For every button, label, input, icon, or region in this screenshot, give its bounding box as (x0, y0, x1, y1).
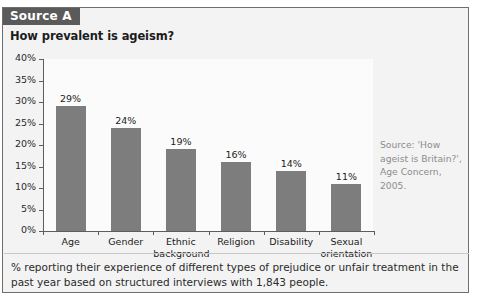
bar (111, 128, 141, 231)
bar (166, 149, 196, 231)
bar-value-label: 29% (46, 93, 96, 104)
bar-value-label: 14% (266, 158, 316, 169)
y-axis-tick-mark (39, 81, 43, 82)
x-axis-category-label: Ethnic background (153, 236, 208, 259)
bar-value-label: 11% (321, 171, 371, 182)
x-axis-tick-mark (374, 231, 375, 235)
y-axis-tick-mark (39, 145, 43, 146)
y-axis-tick-mark (39, 210, 43, 211)
y-axis-tick-mark (39, 59, 43, 60)
y-axis-tick-label: 20% (15, 138, 36, 149)
x-axis-category-label: Disability (264, 236, 319, 248)
y-axis-tick-label: 35% (15, 74, 36, 85)
x-axis-category-label: Sexual orientation (319, 236, 374, 259)
y-axis-tick-mark (39, 167, 43, 168)
x-axis-tick-mark (319, 231, 320, 235)
y-axis-tick-label: 10% (15, 181, 36, 192)
x-axis-tick-mark (153, 231, 154, 235)
y-axis-tick-label: 15% (15, 160, 36, 171)
chart-caption: % reporting their experience of differen… (11, 260, 463, 290)
x-axis-tick-mark (209, 231, 210, 235)
bar-value-label: 16% (211, 149, 261, 160)
y-axis-tick-label: 40% (15, 52, 36, 63)
source-card: Source A How prevalent is ageism? 40%35%… (2, 7, 469, 293)
source-tab-label: Source A (3, 8, 80, 25)
y-axis-tick-label: 30% (15, 95, 36, 106)
chart-title: How prevalent is ageism? (10, 29, 174, 43)
y-axis-tick-mark (39, 188, 43, 189)
bar (331, 184, 361, 231)
chart-plot-area (43, 59, 373, 231)
x-axis-category-label: Gender (98, 236, 153, 248)
bar (276, 171, 306, 231)
x-axis-category-label: Religion (209, 236, 264, 248)
source-attribution: Source: 'How ageist is Britain?', Age Co… (380, 138, 466, 192)
bar-value-label: 24% (101, 115, 151, 126)
y-axis-line (43, 59, 44, 232)
x-axis-category-label: Age (43, 236, 98, 248)
y-axis-tick-label: 5% (21, 203, 36, 214)
bar (56, 106, 86, 231)
y-axis-tick-label: 25% (15, 117, 36, 128)
x-axis-tick-mark (264, 231, 265, 235)
bar (221, 162, 251, 231)
bar-value-label: 19% (156, 136, 206, 147)
y-axis-tick-mark (39, 124, 43, 125)
x-axis-tick-mark (43, 231, 44, 235)
y-axis-tick-mark (39, 102, 43, 103)
section-divider (4, 253, 469, 254)
y-axis-tick-label: 0% (21, 224, 36, 235)
x-axis-tick-mark (98, 231, 99, 235)
